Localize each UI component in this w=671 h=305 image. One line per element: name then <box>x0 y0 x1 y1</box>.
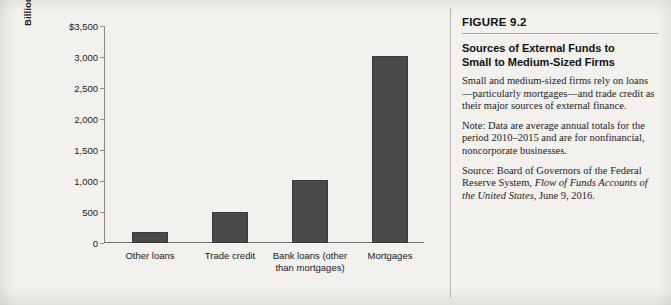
figure-caption: FIGURE 9.2 Sources of External Funds to … <box>462 16 658 209</box>
bar-chart: Billions of dollars $3,5003,0002,5002,00… <box>0 0 450 305</box>
y-axis-tick-label: 0 <box>46 238 98 249</box>
figure-title: Sources of External Funds to Small to Me… <box>462 41 658 69</box>
y-axis-tick-label: $3,500 <box>46 21 98 32</box>
y-axis-tick <box>100 181 104 182</box>
x-axis-category-label: Trade credit <box>205 250 255 262</box>
caption-source-suffix: June 9, 2016. <box>536 190 595 201</box>
figure-title-line-1: Sources of External Funds to <box>462 41 658 55</box>
x-axis-category-label: Bank loans (other than mortgages) <box>273 250 347 273</box>
y-axis-line <box>104 26 105 243</box>
y-axis-tick-label: 1,500 <box>46 145 98 156</box>
figure-title-line-2: Small to Medium-Sized Firms <box>462 55 658 69</box>
y-axis-tick-label: 2,000 <box>46 114 98 125</box>
y-axis-tick-label: 1,000 <box>46 176 98 187</box>
y-axis-tick <box>100 57 104 58</box>
y-axis-tick-label: 3,000 <box>46 52 98 63</box>
y-axis-tick <box>100 26 104 27</box>
y-axis-tick <box>100 88 104 89</box>
y-axis-tick-label: 2,500 <box>46 83 98 94</box>
caption-note: Note: Data are average annual totals for… <box>462 120 658 158</box>
y-axis-tick-label: 500 <box>46 207 98 218</box>
caption-rule <box>462 33 658 34</box>
figure-number: FIGURE 9.2 <box>462 16 658 28</box>
bar <box>212 212 248 243</box>
x-axis-category-label: Mortgages <box>368 250 413 262</box>
bar <box>292 180 328 243</box>
y-axis-tick <box>100 150 104 151</box>
y-axis-tick <box>100 243 104 244</box>
bar <box>372 56 408 243</box>
bar <box>132 232 168 243</box>
x-axis-category-label: Other loans <box>125 250 174 262</box>
panel-divider <box>450 8 451 298</box>
y-axis-title: Billions of dollars <box>22 0 36 26</box>
y-axis-tick <box>100 119 104 120</box>
caption-body: Small and medium-sized firms rely on loa… <box>462 75 658 113</box>
y-axis-title-wrapper: Billions of dollars <box>0 0 40 305</box>
caption-source: Source: Board of Governors of the Federa… <box>462 165 658 203</box>
figure-page: Billions of dollars $3,5003,0002,5002,00… <box>0 0 671 305</box>
plot-area: $3,5003,0002,5002,0001,5001,0005000 Othe… <box>104 26 424 243</box>
y-axis-tick <box>100 212 104 213</box>
